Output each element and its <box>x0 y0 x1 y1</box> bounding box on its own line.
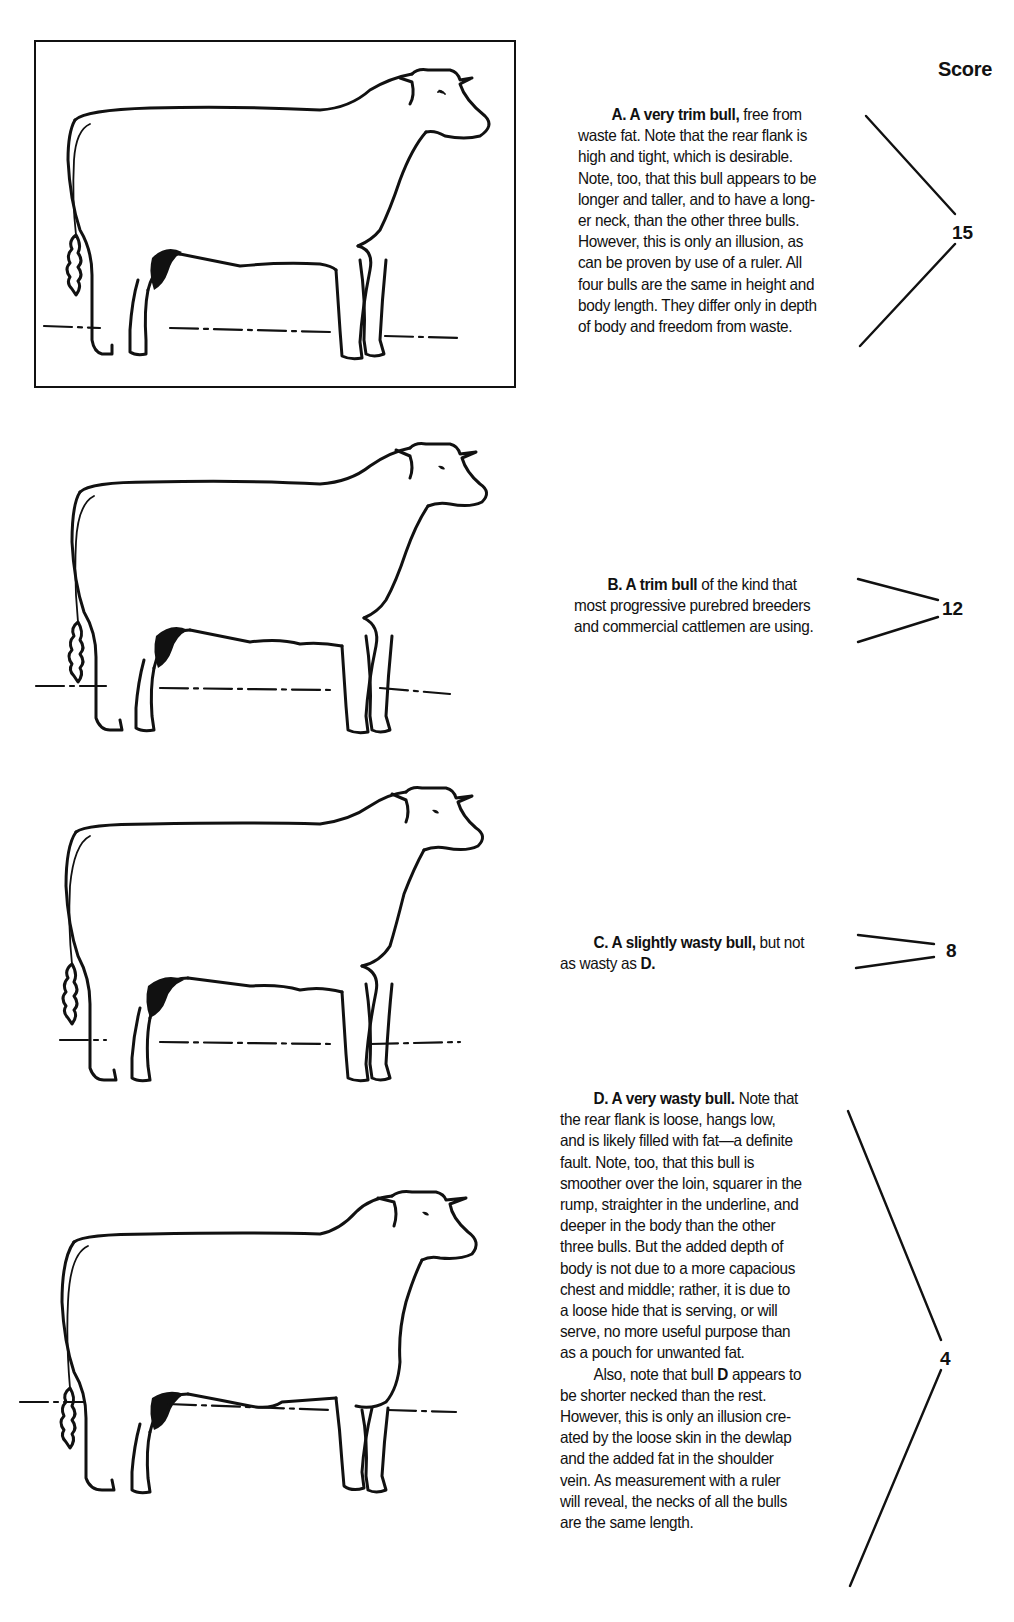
bull-d-score: 4 <box>940 1348 951 1370</box>
bull-d-score-bracket-icon <box>0 0 1014 1622</box>
